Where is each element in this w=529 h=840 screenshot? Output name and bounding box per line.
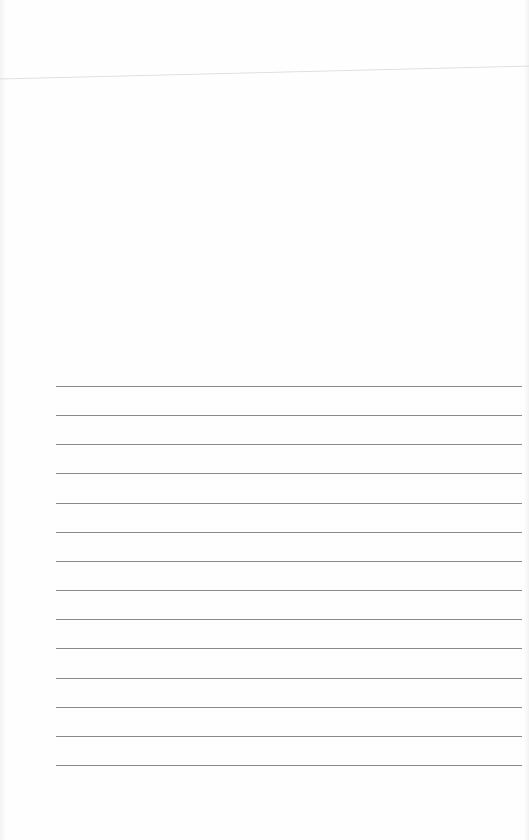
ruled-line	[56, 503, 522, 504]
ruled-line	[56, 590, 522, 591]
ruled-line	[56, 707, 522, 708]
ruled-line	[56, 473, 522, 474]
ruled-line	[56, 736, 522, 737]
ruled-line	[56, 532, 522, 533]
ruled-line	[56, 648, 522, 649]
ruled-line	[56, 765, 522, 766]
lined-paper-page	[0, 0, 529, 840]
ruled-line	[56, 415, 522, 416]
ruled-line	[56, 678, 522, 679]
paper-right-edge	[524, 0, 529, 840]
ruled-line	[56, 561, 522, 562]
ruled-line	[56, 619, 522, 620]
ruled-line	[56, 386, 522, 387]
paper-left-edge	[0, 0, 6, 840]
paper-fold-crease	[0, 65, 529, 80]
ruled-line	[56, 444, 522, 445]
